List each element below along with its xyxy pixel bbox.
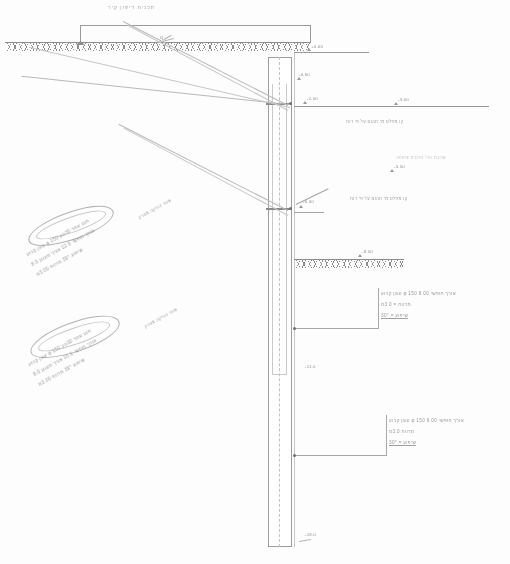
grout-bulb-row-1-label: אזור הזרקה מוזרק [138,198,172,220]
surcharge-bracket [80,25,310,26]
existing-ground-surface [5,42,310,51]
anchor-free-length-row-2 [118,124,288,211]
leader-right-block-2 [294,455,386,456]
leader-right-block-1 [294,328,378,329]
right-block-1-line-2: מרווח = 3.0מ [381,302,411,307]
right-block-2-line-1: עוגן קבוע φ 150 אורך חופשי 6.00 [389,418,464,423]
leader-node-right-block-1 [293,327,296,330]
elev-tick-anchor-row-2 [299,205,303,208]
elev-label-wall-mid: -11.0 [305,364,316,369]
elev-tick-water-table-1 [394,102,398,105]
drawing-title: תכנית דיפון קיר [108,5,155,10]
elev-leader-top-of-wall [294,52,369,53]
anchor-free-length-row-2-parallel [124,128,289,216]
elev-label-top-of-wall: +0.00 [311,44,323,49]
anchor-free-length-row-1-parallel [127,25,288,111]
elev-tick-excavation [358,254,362,257]
surcharge-bracket-leg-right [310,25,311,43]
anchor-tendon-row-1-b [29,47,290,108]
drawing-sheet: תכנית דיפון קיר q +0.00 -0.60 -2.00 -3.0… [0,0,510,564]
elev-label-anchor-row-1: -2.00 [307,96,318,101]
elev-label-excavation: -8.50 [362,249,373,254]
wall-toe-leader [299,539,311,542]
leader-node-right-block-2 [293,454,296,457]
elev-label-layer-2: -5.50 [394,164,405,169]
anchor-row-2-base-detail [294,212,324,213]
excavation-hatch [294,260,404,268]
leader-right-block-2-vertical [386,415,387,456]
anchor-head-row-2 [289,207,292,210]
right-block-1-line-1: עוגן קבוע φ 150 אורך חופשי 8.00 [381,291,456,296]
elev-tick-layer-2 [390,169,394,172]
elev-tick-wall-cap [297,77,301,80]
right-block-1-line-3: שיפוע = 30° [381,313,408,319]
water-table-line-1 [294,106,489,107]
leader-right-block-1-vertical [378,288,379,329]
ground-hatch [5,43,310,51]
reinforcement-cage [272,84,287,375]
right-block-2-line-2: מרווח 3.0מ [389,429,414,434]
elev-label-wall-toe: -18.0 [305,532,316,537]
anchor-free-length-row-1 [123,21,288,106]
water-table-note-2: קו מפלס מי תהום על פי דוח [350,196,408,201]
right-block-2-line-3: שיפוע = 30° [389,440,416,446]
water-table-note-1: קו מפלס מי תהום על פי דוח [346,119,404,124]
elev-tick-anchor-row-1 [303,101,307,104]
grout-bulb-row-2-label: אזור הזרקה מוזרק [144,307,178,329]
elev-label-water-table-1: -3.00 [398,97,409,102]
soil-layer-1-label: שכבת חול חרסית צפופה [396,155,446,160]
excavation-bottom-surface [294,259,404,268]
wall-right-reference-line [294,52,295,547]
